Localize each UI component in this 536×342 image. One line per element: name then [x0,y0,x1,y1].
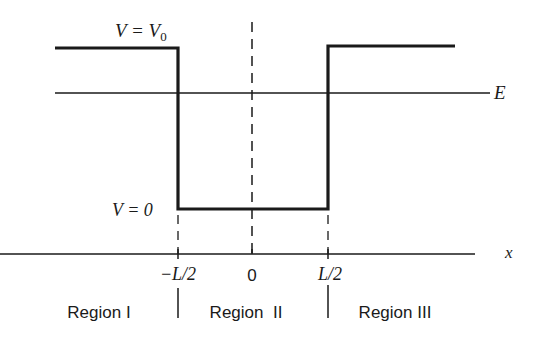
region-1-label: Region I [67,303,130,322]
region-2-label: Region II [210,303,283,322]
region-3-label: Region III [359,303,432,322]
label-energy: E [493,82,506,103]
tick-label-zero: 0 [247,266,256,285]
potential-well-diagram: V = V0 V = 0 E x −L/2 0 L/2 Region I Reg… [0,0,536,342]
label-v-low: V = 0 [112,200,153,220]
tick-label-minus-half-l: −L/2 [160,264,196,284]
tick-label-half-l: L/2 [317,264,342,284]
label-v-high: V = V0 [115,20,167,44]
label-x-axis: x [504,243,513,262]
potential-profile [55,46,455,209]
